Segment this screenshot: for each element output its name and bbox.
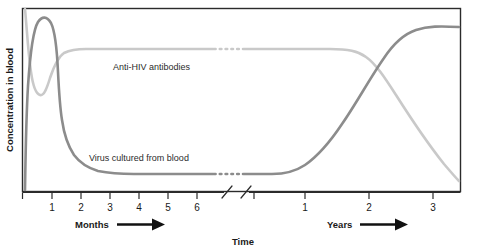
x-tick-label-year-1: 1	[302, 202, 308, 213]
x-tick-label-month-1: 1	[49, 202, 55, 213]
figure-hiv-concentration-chart: 1 2 3 4 5 6 1 2 3 Months Years Time Conc…	[0, 0, 487, 249]
y-axis-title: Concentration in blood	[4, 48, 15, 152]
x-axis-ticks-years	[254, 193, 433, 200]
series-label-virus-cultured-from-blood: Virus cultured from blood	[89, 153, 189, 163]
x-tick-label-month-3: 3	[107, 202, 113, 213]
virus-curve-segment-left	[25, 18, 213, 190]
x-axis-ticks-months	[23, 193, 198, 200]
antibody-curve-segment-left	[25, 9, 213, 95]
plot-frame	[23, 9, 461, 192]
x-tick-label-year-3: 3	[430, 202, 436, 213]
series-virus-cultured-from-blood	[25, 18, 459, 190]
series-label-anti-hiv-antibodies: Anti-HIV antibodies	[113, 62, 191, 72]
x-tick-label-month-5: 5	[165, 202, 171, 213]
chart-canvas: 1 2 3 4 5 6 1 2 3 Months Years Time Conc…	[0, 0, 487, 249]
x-tick-label-month-2: 2	[78, 202, 84, 213]
years-arrow-icon	[360, 219, 408, 231]
x-tick-label-year-2: 2	[366, 202, 372, 213]
months-arrow-icon	[117, 219, 165, 231]
antibody-curve-segment-right	[244, 49, 459, 181]
x-axis-title: Time	[232, 236, 254, 247]
years-scale-label: Years	[327, 219, 352, 230]
x-tick-label-month-6: 6	[194, 202, 200, 213]
months-scale-label: Months	[75, 219, 109, 230]
x-tick-label-month-4: 4	[136, 202, 142, 213]
